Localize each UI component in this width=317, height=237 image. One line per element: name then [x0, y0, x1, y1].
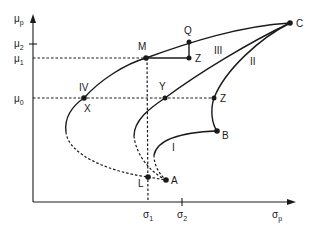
point-c: [287, 20, 293, 26]
label-q: Q: [184, 25, 192, 36]
point-z-upper: [187, 56, 192, 61]
point-q: [187, 40, 192, 45]
point-b: [214, 128, 220, 134]
label-c: C: [296, 18, 303, 29]
curve-ii: [212, 23, 290, 131]
curve-iii-inefficient: [134, 136, 166, 180]
curve-i: [154, 131, 217, 155]
point-x: [81, 95, 87, 101]
efficient-frontier-diagram: μp μ2 μ1 μ0 σ1 σ2 σp C M Q Z: [0, 0, 317, 237]
y-axis-label: μp: [14, 13, 24, 27]
label-x: X: [84, 103, 91, 114]
x-tick-label-sigma1: σ1: [143, 209, 153, 222]
point-y: [163, 96, 168, 101]
x-axis-arrow-icon: [287, 199, 296, 205]
y-tick-label-mu0: μ0: [14, 93, 24, 106]
curve-i-inefficient: [154, 155, 166, 180]
curve-iv-inefficient: [66, 132, 148, 177]
y-tick-label-mu1: μ1: [14, 53, 24, 66]
label-z-upper: Z: [195, 53, 201, 64]
label-m: M: [138, 41, 146, 52]
sigma1-guide: [147, 58, 148, 202]
y-tick-label-mu2: μ2: [14, 38, 24, 51]
point-m: [143, 55, 149, 61]
label-curve-iii: III: [214, 45, 222, 56]
label-b: B: [222, 130, 229, 141]
point-l: [145, 174, 151, 180]
label-y: Y: [159, 81, 166, 92]
label-l: L: [138, 178, 144, 189]
label-z-mid: Z: [220, 93, 226, 104]
label-curve-ii: II: [250, 56, 256, 67]
x-axis-label: σp: [272, 209, 282, 223]
label-a: A: [171, 175, 178, 186]
x-tick-label-sigma2: σ2: [177, 209, 187, 222]
curve-iv: [66, 23, 290, 132]
label-curve-i: I: [172, 142, 175, 153]
guide-lines: [33, 58, 214, 202]
label-curve-iv: IV: [79, 82, 89, 93]
point-a: [163, 177, 169, 183]
y-axis-arrow-icon: [30, 14, 36, 23]
point-z-mid: [212, 96, 217, 101]
